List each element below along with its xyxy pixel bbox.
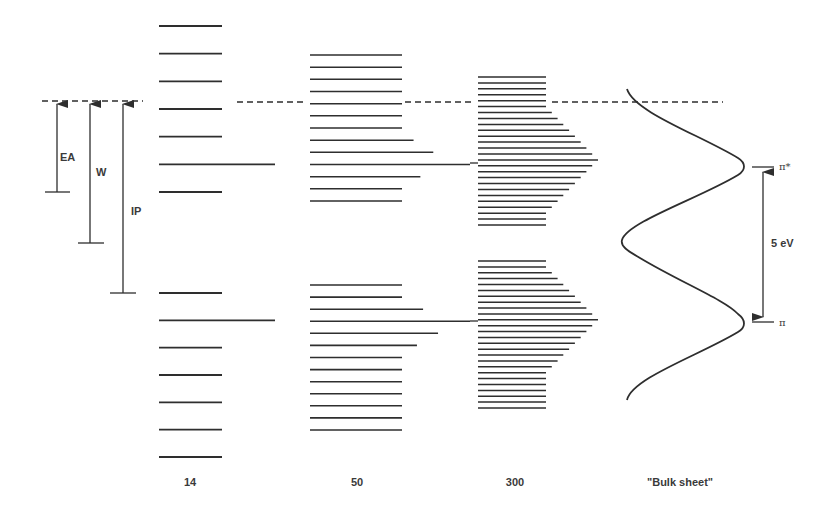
ip-label: IP: [131, 205, 141, 217]
pi-label: π: [779, 317, 786, 328]
left-annotations: [45, 104, 136, 293]
ea-arrow: [45, 104, 70, 192]
column-label-50: 50: [351, 476, 363, 488]
vacuum-level-lines: [42, 101, 723, 102]
pi-star-label: π*: [779, 161, 791, 172]
w-label: W: [96, 166, 107, 178]
energy-level-diagram: EA W IP π* π 5 eV 14 50 300 "Bulk sheet": [0, 0, 830, 511]
column-label-14: 14: [184, 476, 197, 488]
column-14-levels: [159, 26, 275, 457]
bulk-sheet-curve: [622, 89, 744, 400]
column-300-levels: [470, 77, 598, 408]
ip-arrow: [110, 104, 136, 293]
column-label-bulk-sheet: "Bulk sheet": [647, 476, 713, 488]
column-50-levels: [310, 55, 470, 430]
column-label-300: 300: [506, 476, 524, 488]
ea-label: EA: [60, 151, 75, 163]
gap-value-label: 5 eV: [771, 237, 794, 249]
